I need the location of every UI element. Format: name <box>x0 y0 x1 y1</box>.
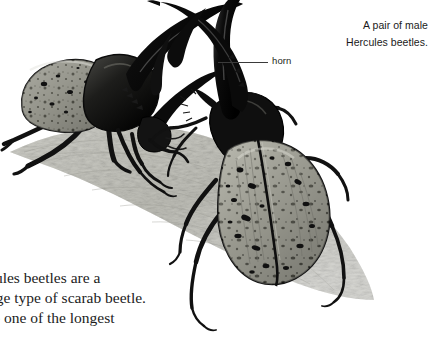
callout-label-horn: horn <box>272 55 291 66</box>
body-text-line-1: cules beetles are a <box>0 268 248 288</box>
figure-caption: A pair of male Hercules beetles. <box>308 17 428 51</box>
body-text-line-2: uge type of scarab beetle. <box>0 288 248 308</box>
caption-line-2: Hercules beetles. <box>308 34 428 51</box>
body-text-line-3: re one of the longest <box>0 308 248 328</box>
horn-leader-line <box>218 62 268 63</box>
page-canvas: horn A pair of male Hercules beetles. cu… <box>0 0 430 337</box>
caption-line-1: A pair of male <box>308 17 428 34</box>
body-text-block: cules beetles are a uge type of scarab b… <box>0 268 248 328</box>
